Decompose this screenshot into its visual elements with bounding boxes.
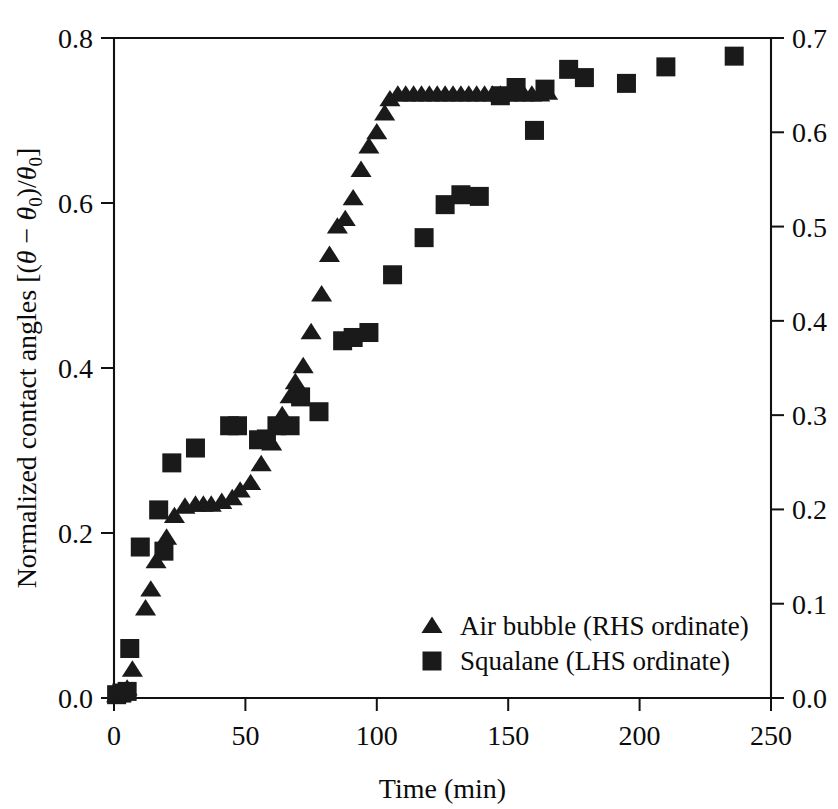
y-tick-label-left: 0.8 [58,23,93,54]
data-point-air-bubble [301,323,322,339]
x-tick-label: 100 [356,720,398,751]
data-point-air-bubble [311,285,332,301]
data-point-squalane [507,78,526,97]
data-point-squalane [118,682,137,701]
y-tick-label-right: 0.0 [792,683,827,714]
data-point-squalane [535,80,554,99]
data-point-squalane [725,47,744,66]
data-point-squalane [186,439,205,458]
data-point-air-bubble [374,104,395,120]
data-point-air-bubble [140,580,161,596]
legend-marker-triangle [421,617,442,633]
x-tick-label: 150 [487,720,529,751]
y-tick-label-left: 0.2 [58,518,93,549]
data-point-squalane [415,228,434,247]
data-point-squalane [383,265,402,284]
data-point-squalane [120,639,139,658]
figure-container: 0501001502002500.00.20.40.60.80.00.10.20… [0,0,838,809]
data-point-squalane [309,402,328,421]
x-tick-label: 0 [107,720,121,751]
data-point-air-bubble [343,189,364,205]
y-tick-label-right: 0.1 [792,589,827,620]
y-tick-label-left: 0.4 [58,353,93,384]
data-point-squalane [131,538,150,557]
y-tick-label-right: 0.6 [792,117,827,148]
data-point-squalane [149,500,168,519]
y-tick-label-left: 0.0 [58,683,93,714]
data-point-air-bubble [335,210,356,226]
data-point-air-bubble [135,599,156,615]
y-tick-label-right: 0.2 [792,494,827,525]
y-axis-title: Normalized contact angles [(θ − θ0)/θ0] [11,148,46,589]
data-markers-group [106,47,744,705]
y-tick-label-right: 0.5 [792,212,827,243]
legend: Air bubble (RHS ordinate)Squalane (LHS o… [421,611,748,676]
y-tick-label-left: 0.6 [58,188,93,219]
data-point-squalane [470,187,489,206]
data-point-squalane [525,121,544,140]
data-point-air-bubble [240,474,261,490]
y-tick-label-right: 0.7 [792,23,827,54]
x-tick-label: 50 [231,720,259,751]
y-tick-label-right: 0.4 [792,306,827,337]
scatter-plot: 0501001502002500.00.20.40.60.80.00.10.20… [0,0,838,809]
data-point-squalane [162,453,181,472]
data-point-air-bubble [358,137,379,153]
data-point-air-bubble [366,123,387,139]
data-point-air-bubble [293,357,314,373]
x-axis-title: Time (min) [379,773,506,804]
data-point-air-bubble [319,245,340,261]
x-tick-label: 250 [750,720,792,751]
data-point-squalane [617,74,636,93]
data-point-squalane [575,68,594,87]
data-point-squalane [451,185,470,204]
y-tick-label-right: 0.3 [792,400,827,431]
data-point-air-bubble [122,660,143,676]
legend-label: Air bubble (RHS ordinate) [460,611,749,641]
data-point-squalane [359,323,378,342]
data-point-squalane [281,416,300,435]
legend-label: Squalane (LHS ordinate) [460,646,730,676]
data-point-squalane [154,542,173,561]
x-tick-label: 200 [619,720,661,751]
data-point-air-bubble [285,373,306,389]
data-point-squalane [656,57,675,76]
legend-marker-square [423,652,442,671]
data-point-squalane [291,387,310,406]
data-point-air-bubble [251,455,272,471]
data-point-air-bubble [350,161,371,177]
data-point-squalane [228,416,247,435]
